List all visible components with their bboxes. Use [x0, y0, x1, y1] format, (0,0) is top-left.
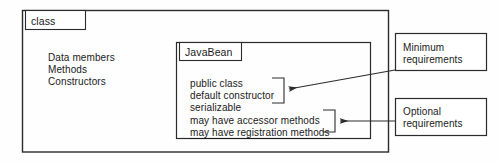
javabean-requirement-item: public class [190, 78, 330, 90]
class-member-item: Methods [48, 64, 115, 76]
javabean-requirement-item: default constructor [190, 90, 330, 102]
optional-requirements-line1: Optional [403, 106, 463, 118]
javabean-requirement-item: may have accessor methods [190, 115, 330, 127]
javabean-requirements-list: public class default constructor seriali… [190, 78, 330, 139]
optional-requirements-label: Optional requirements [403, 106, 463, 130]
class-members-list: Data members Methods Constructors [48, 52, 115, 89]
class-member-item: Data members [48, 52, 115, 64]
javabean-requirement-item: may have registration methods [190, 127, 330, 139]
javabean-requirement-underlined-text: may have registration methods [190, 127, 330, 139]
class-member-item: Constructors [48, 76, 115, 88]
optional-requirements-line2: requirements [403, 118, 463, 130]
javabean-tab-label: JavaBean [185, 46, 233, 58]
javabean-requirement-item: serializable [190, 102, 330, 114]
minimum-requirements-label: Minimum requirements [403, 42, 463, 66]
javabean-class-diagram: class JavaBean Data members Methods Cons… [0, 0, 501, 162]
minimum-requirements-line2: requirements [403, 54, 463, 66]
minimum-requirements-line1: Minimum [403, 42, 463, 54]
class-tab-label: class [31, 15, 55, 27]
